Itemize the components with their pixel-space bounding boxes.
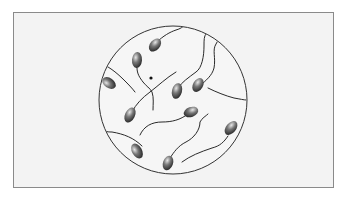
debris-dot [149, 76, 152, 79]
microscope-field-of-view [99, 26, 247, 174]
microscope-illustration [0, 0, 343, 199]
